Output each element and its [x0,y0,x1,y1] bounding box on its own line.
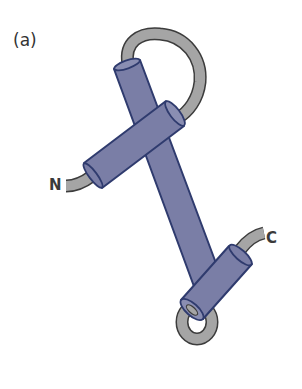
n-terminal-tail [66,176,92,186]
protein-topology-diagram [0,0,302,389]
n-terminus-label: N [49,176,62,194]
helix-1 [113,56,226,300]
c-terminal-tail [240,233,264,250]
c-terminus-label: C [266,229,277,247]
